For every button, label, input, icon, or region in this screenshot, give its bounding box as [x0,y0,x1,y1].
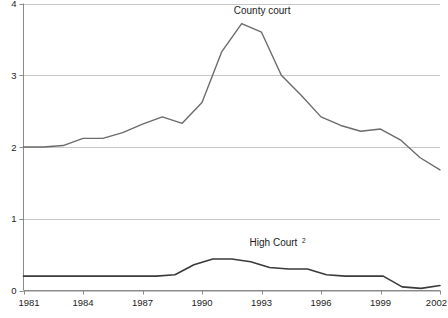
annotation-superscript: 2 [302,237,306,244]
line-chart: 01234 19811984198719901993199619992002 C… [0,0,448,318]
x-tick-label-1993: 1993 [251,297,272,308]
y-tick-label-0: 0 [11,285,16,296]
annotation-text: County court [234,5,291,16]
y-tick-label-1: 1 [11,213,16,224]
annotation-county-court: County court [234,5,291,16]
chart-container: 01234 19811984198719901993199619992002 C… [0,0,448,318]
x-tick-label-1987: 1987 [132,297,153,308]
y-tick-label-2: 2 [11,142,16,153]
x-tick-label-1996: 1996 [310,297,331,308]
x-tick-label-1999: 1999 [370,297,391,308]
x-tick-label-2002: 2002 [426,297,447,308]
annotation-text: High Court [250,237,298,248]
y-tick-label-4: 4 [11,0,16,9]
x-tick-label-1981: 1981 [19,297,40,308]
x-tick-label-1990: 1990 [191,297,212,308]
x-tick-label-1984: 1984 [72,297,93,308]
y-tick-label-3: 3 [11,70,16,81]
